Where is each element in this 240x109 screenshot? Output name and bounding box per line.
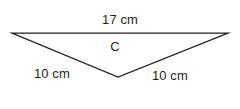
side-length-label-right: 10 cm — [152, 69, 188, 82]
geometry-figure: 17 cm C 10 cm 10 cm — [0, 0, 240, 109]
vertex-label-c: C — [0, 40, 230, 53]
side-length-label-left: 10 cm — [34, 67, 70, 80]
side-length-label-top: 17 cm — [0, 13, 240, 26]
